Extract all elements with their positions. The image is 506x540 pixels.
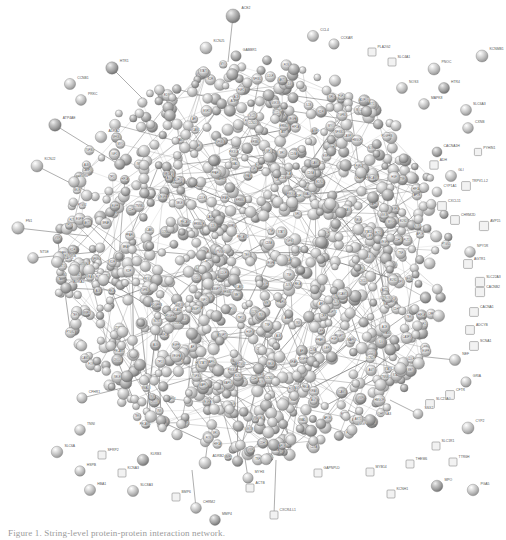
node-shape-sphere[interactable] xyxy=(433,310,445,322)
node-shape-sphere[interactable] xyxy=(463,123,474,134)
network-node[interactable]: MMP9 xyxy=(83,309,91,317)
node-shape-sphere[interactable] xyxy=(391,121,401,131)
node-shape-sphere[interactable] xyxy=(419,183,429,193)
network-node[interactable] xyxy=(382,189,394,201)
network-node[interactable] xyxy=(316,208,324,216)
network-node[interactable]: AGT xyxy=(310,397,318,405)
network-node[interactable] xyxy=(315,236,327,248)
node-shape-sphere[interactable] xyxy=(208,343,220,355)
network-node[interactable]: CD8A xyxy=(263,238,275,250)
network-node[interactable] xyxy=(309,436,318,445)
node-shape-sphere[interactable] xyxy=(347,425,357,435)
network-node[interactable]: ICAM1 xyxy=(80,354,89,363)
node-shape-sphere[interactable] xyxy=(383,404,391,412)
network-node[interactable] xyxy=(170,240,178,248)
network-node[interactable] xyxy=(285,310,294,319)
node-shape-sphere[interactable] xyxy=(326,351,337,362)
network-node[interactable]: EGFR xyxy=(172,341,180,349)
network-node[interactable]: TEK xyxy=(133,413,141,421)
node-shape-sphere[interactable] xyxy=(69,198,78,207)
network-node[interactable] xyxy=(420,293,431,304)
node-shape-sphere[interactable] xyxy=(181,130,191,140)
network-node[interactable] xyxy=(128,245,137,254)
network-node[interactable] xyxy=(272,321,281,330)
network-node[interactable] xyxy=(106,297,114,305)
network-node[interactable] xyxy=(340,160,352,172)
network-node[interactable]: KRAS xyxy=(86,274,94,282)
network-node[interactable]: VWF xyxy=(53,234,62,243)
network-node[interactable] xyxy=(154,313,161,320)
node-shape-sphere[interactable] xyxy=(212,232,219,239)
network-node[interactable]: RELA xyxy=(108,288,115,295)
network-node[interactable] xyxy=(231,137,241,147)
network-node[interactable]: SRC xyxy=(327,93,336,102)
node-shape-sphere[interactable] xyxy=(170,240,178,248)
network-node[interactable]: BRAF xyxy=(100,218,111,229)
network-node[interactable] xyxy=(296,81,304,89)
network-node[interactable] xyxy=(177,420,186,429)
network-node[interactable] xyxy=(379,203,388,212)
network-node[interactable] xyxy=(400,324,409,333)
node-shape-sphere[interactable] xyxy=(146,90,153,97)
network-node[interactable]: TNF xyxy=(396,248,406,258)
network-node[interactable]: ESR1 xyxy=(201,105,212,116)
network-node[interactable]: RELA xyxy=(302,384,310,392)
node-shape-sphere[interactable] xyxy=(305,425,317,437)
network-node[interactable]: ALB xyxy=(150,340,160,350)
node-shape-sphere[interactable] xyxy=(178,229,185,236)
network-node[interactable] xyxy=(273,343,280,350)
network-node[interactable] xyxy=(225,162,232,169)
node-shape-sphere[interactable] xyxy=(248,100,255,107)
network-node[interactable]: INS xyxy=(294,319,302,327)
node-shape-unknown-structure[interactable] xyxy=(462,182,471,191)
node-shape-sphere[interactable] xyxy=(310,285,319,294)
network-node[interactable] xyxy=(298,145,305,152)
node-shape-sphere[interactable] xyxy=(352,380,360,388)
network-node[interactable]: IL1B xyxy=(304,101,313,110)
network-node[interactable] xyxy=(121,371,132,382)
node-shape-sphere[interactable] xyxy=(355,407,363,415)
node-shape-sphere[interactable] xyxy=(423,224,431,232)
network-node[interactable] xyxy=(180,142,191,153)
node-shape-sphere[interactable] xyxy=(137,454,149,466)
network-node[interactable] xyxy=(166,217,176,227)
network-node[interactable] xyxy=(203,123,211,131)
network-node[interactable]: VWF xyxy=(252,416,259,423)
node-shape-sphere[interactable] xyxy=(95,131,107,143)
network-node[interactable] xyxy=(173,151,181,159)
network-node[interactable] xyxy=(321,402,329,410)
network-node[interactable] xyxy=(156,290,164,298)
network-node[interactable] xyxy=(342,412,351,421)
node-shape-sphere[interactable] xyxy=(129,350,138,359)
network-node[interactable]: HIF1A xyxy=(291,123,301,133)
network-node[interactable]: HGF xyxy=(330,335,339,344)
network-node[interactable]: VWF xyxy=(356,393,367,404)
network-node[interactable] xyxy=(164,324,174,334)
node-shape-sphere[interactable] xyxy=(131,395,139,403)
network-node[interactable]: VWF xyxy=(246,446,254,454)
node-shape-sphere[interactable] xyxy=(165,276,174,285)
network-node[interactable] xyxy=(270,115,279,124)
network-node[interactable] xyxy=(278,420,287,429)
node-shape-sphere[interactable] xyxy=(386,234,394,242)
node-shape-sphere[interactable] xyxy=(156,290,164,298)
node-shape-sphere[interactable] xyxy=(226,9,240,23)
network-node[interactable] xyxy=(213,382,221,390)
node-shape-sphere[interactable] xyxy=(210,515,221,526)
node-shape-sphere[interactable] xyxy=(326,103,334,111)
node-shape-sphere[interactable] xyxy=(139,160,149,170)
network-node[interactable] xyxy=(149,283,158,292)
network-node[interactable] xyxy=(173,160,182,169)
network-node[interactable] xyxy=(372,140,381,149)
network-node[interactable] xyxy=(104,303,112,311)
network-node[interactable] xyxy=(115,110,122,117)
node-shape-sphere[interactable] xyxy=(188,231,195,238)
network-node[interactable]: AKT1 xyxy=(278,76,288,86)
network-node[interactable]: CDH5 xyxy=(250,375,259,384)
node-shape-sphere[interactable] xyxy=(175,256,184,265)
network-node[interactable] xyxy=(158,382,168,392)
network-node[interactable]: ACE xyxy=(379,322,390,333)
node-shape-sphere[interactable] xyxy=(164,110,176,122)
network-node[interactable]: MYC xyxy=(116,139,125,148)
network-node[interactable] xyxy=(412,331,420,339)
